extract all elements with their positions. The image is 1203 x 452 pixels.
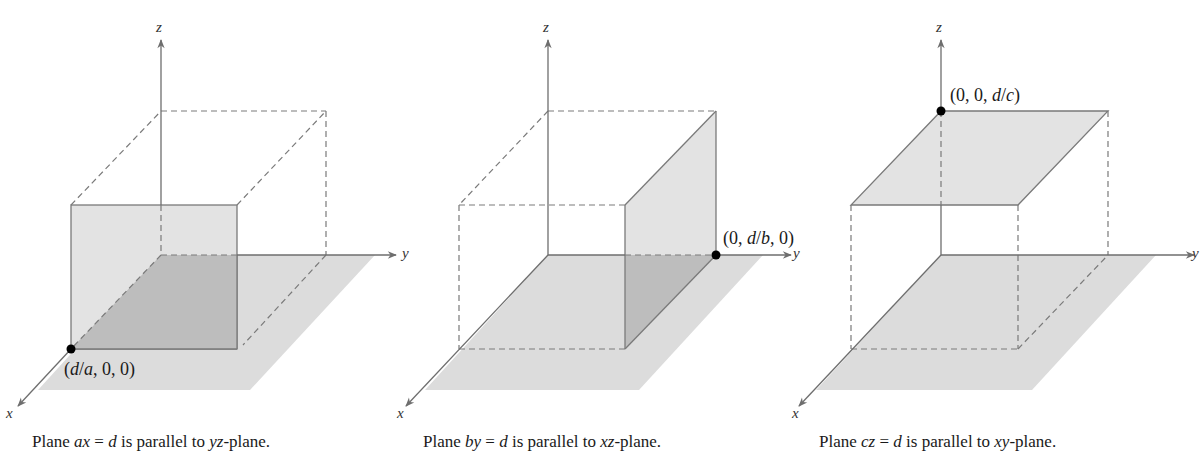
caption: Plane cz = d is parallel to xy-plane. bbox=[819, 432, 1056, 452]
xy-floor-plane bbox=[816, 255, 1156, 390]
caption: Plane by = d is parallel to xz-plane. bbox=[423, 432, 661, 452]
intercept-point bbox=[712, 251, 721, 260]
panel-plane-cz-d: z y x (0, 0, d/c) Plane cz = d is parall… bbox=[802, 0, 1203, 450]
x-axis-label: x bbox=[6, 406, 13, 421]
x-axis-label: x bbox=[397, 406, 404, 421]
point-label: (d/a, 0, 0) bbox=[64, 360, 135, 378]
y-axis-label: y bbox=[1192, 246, 1199, 261]
y-axis-label: y bbox=[793, 246, 800, 261]
intercept-point bbox=[67, 345, 76, 354]
xy-floor-plane bbox=[425, 255, 763, 390]
caption: Plane ax = d is parallel to yz-plane. bbox=[32, 432, 270, 452]
z-axis-label: z bbox=[156, 20, 162, 35]
x-axis-label: x bbox=[792, 406, 799, 421]
intercept-point bbox=[937, 107, 946, 116]
diagram-plane-cz-d bbox=[802, 0, 1203, 450]
plane-cz-d bbox=[851, 111, 1108, 205]
diagram-plane-ax-d bbox=[0, 0, 401, 450]
point-label: (0, d/b, 0) bbox=[723, 229, 794, 247]
diagram-plane-by-d bbox=[401, 0, 802, 450]
z-axis-label: z bbox=[543, 20, 549, 35]
z-axis-label: z bbox=[936, 20, 942, 35]
panel-plane-ax-d: z y x (d/a, 0, 0) Plane ax = d is parall… bbox=[0, 0, 401, 450]
point-label: (0, 0, d/c) bbox=[950, 86, 1020, 104]
panel-plane-by-d: z y x (0, d/b, 0) Plane by = d is parall… bbox=[401, 0, 802, 450]
